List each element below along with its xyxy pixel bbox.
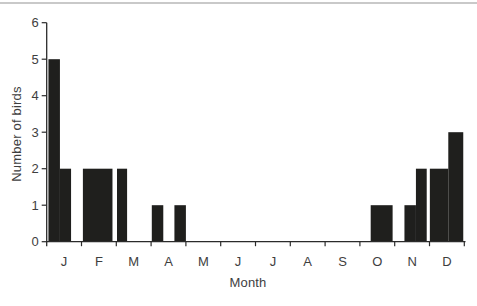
x-tick-label: O	[372, 254, 382, 269]
bar	[404, 205, 415, 242]
y-tick-label: 5	[31, 52, 38, 67]
bar	[60, 169, 71, 242]
y-tick-label: 4	[31, 88, 38, 103]
y-tick-label: 1	[31, 198, 38, 213]
bar	[448, 132, 463, 242]
bar	[371, 205, 393, 242]
x-tick-label: D	[442, 254, 451, 269]
x-tick-label: N	[407, 254, 416, 269]
x-tick-label: M	[128, 254, 139, 269]
x-tick-label: F	[95, 254, 103, 269]
bar	[83, 169, 113, 242]
x-tick-label: A	[303, 254, 312, 269]
plot-area: 0123456JFMAMJJASOND	[0, 0, 477, 306]
x-tick-label: J	[270, 254, 277, 269]
bird-count-chart-figure: 0123456JFMAMJJASOND Number of birds Mont…	[0, 0, 477, 306]
bar	[430, 169, 448, 242]
bar	[152, 205, 163, 242]
y-tick-label: 6	[31, 15, 38, 30]
bar	[174, 205, 185, 242]
x-axis-title: Month	[188, 275, 308, 290]
y-tick-label: 2	[31, 161, 38, 176]
bar	[48, 59, 59, 242]
x-tick-label: S	[338, 254, 347, 269]
x-tick-label: J	[61, 254, 68, 269]
x-tick-label: M	[198, 254, 209, 269]
y-tick-label: 3	[31, 125, 38, 140]
bar	[416, 169, 427, 242]
x-tick-label: J	[235, 254, 242, 269]
bar	[117, 169, 127, 242]
y-axis-title: Number of birds	[9, 86, 24, 181]
x-tick-label: A	[164, 254, 173, 269]
y-tick-label: 0	[31, 234, 38, 249]
